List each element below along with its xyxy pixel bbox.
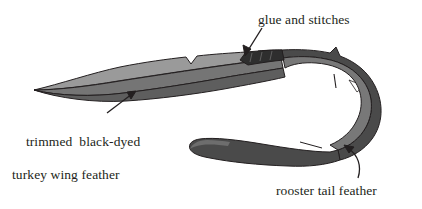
label-turkey-line-2: turkey wing feather [12,167,140,184]
label-turkey-line-1: trimmed black-dyed [26,134,140,149]
rooster-tail-barb-tick [300,142,322,148]
label-rooster-tail-feather: rooster tail feather [276,183,377,200]
label-glue-and-stitches: glue and stitches [258,12,350,29]
label-turkey-wing-feather: trimmed black-dyed turkey wing feather [12,117,140,209]
feather-diagram-figure: glue and stitches trimmed black-dyed tur… [0,0,422,209]
rooster-inner-barb-tick [334,74,336,88]
